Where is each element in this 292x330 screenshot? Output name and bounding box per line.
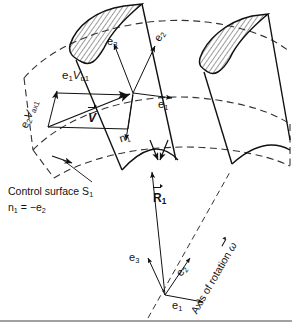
blade-left-tip-section <box>70 4 142 63</box>
blade-right-trailing-edge <box>268 14 290 140</box>
label-e1-lower: e1 <box>172 300 182 312</box>
label-velocity-vector: V <box>88 112 96 124</box>
lower-dashed-boundary <box>54 147 290 178</box>
control-surface-sector <box>24 20 290 178</box>
parallelogram-right-side <box>128 95 133 129</box>
control-surface-annotations <box>52 140 168 182</box>
label-e1-vu1: e1Vu1 <box>62 70 89 83</box>
vector-e2-lower <box>165 258 190 295</box>
label-e3-lower: e3 <box>129 252 139 264</box>
vector-e3-lower <box>148 258 165 295</box>
label-R1: R1 <box>153 192 166 206</box>
blade-left-hub-curve <box>122 149 178 170</box>
vector-e2-upper <box>133 46 155 93</box>
vector-e1-vu1 <box>57 93 128 95</box>
surface-normal-arrow-left <box>52 156 72 163</box>
blade-right-leading-edge <box>204 72 232 164</box>
vector-e2-vax1 <box>48 91 57 127</box>
lower-left-edge <box>33 150 54 178</box>
vector-e3-upper <box>114 44 133 93</box>
unit-vector-triad-station1 <box>114 44 172 140</box>
blade-right-hub-curve <box>232 145 290 164</box>
unit-vector-triad-origin <box>148 258 203 302</box>
label-e3-upper: e3 <box>107 36 117 48</box>
label-normal-relation: n1 = −e2 <box>8 202 46 215</box>
diagram-svg <box>0 0 292 330</box>
figure-canvas: e3 e2 e1 n1 e2Vax1 e1Vu1 V Control surfa… <box>0 0 292 330</box>
vector-e1-upper <box>133 93 172 98</box>
blade-right <box>199 14 290 164</box>
label-e1-center: e1 <box>158 99 168 111</box>
blade-left-trailing-edge <box>142 4 176 160</box>
label-control-surface: Control surface S1 <box>8 186 93 199</box>
